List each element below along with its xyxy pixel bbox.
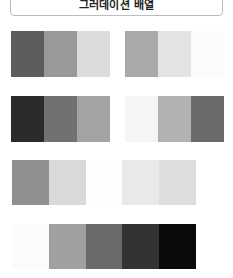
swatch-row-4: [12, 224, 196, 269]
color-swatch: [44, 96, 77, 142]
color-swatch: [77, 96, 110, 142]
color-swatch: [86, 224, 123, 269]
color-swatch: [49, 160, 86, 205]
color-swatch: [122, 224, 159, 269]
color-swatch: [12, 224, 49, 269]
title-box: 그러데이션 배열: [10, 0, 223, 16]
color-swatch: [11, 96, 44, 142]
color-swatch: [86, 160, 123, 205]
color-swatch: [158, 31, 191, 77]
color-swatch: [11, 31, 44, 77]
color-swatch: [44, 31, 77, 77]
color-swatch: [122, 160, 159, 205]
color-swatch: [77, 31, 110, 77]
swatch-row-2-right: [125, 96, 224, 142]
color-swatch: [159, 224, 196, 269]
swatch-row-3: [12, 160, 196, 205]
color-swatch: [158, 96, 191, 142]
color-swatch: [125, 31, 158, 77]
color-swatch: [191, 96, 224, 142]
swatch-row-1-right: [125, 31, 224, 77]
color-swatch: [49, 224, 86, 269]
color-swatch: [12, 160, 49, 205]
color-swatch: [159, 160, 196, 205]
swatch-row-2-left: [11, 96, 110, 142]
color-swatch: [191, 31, 224, 77]
swatch-row-1-left: [11, 31, 110, 77]
color-swatch: [125, 96, 158, 142]
page-title: 그러데이션 배열: [79, 0, 154, 15]
